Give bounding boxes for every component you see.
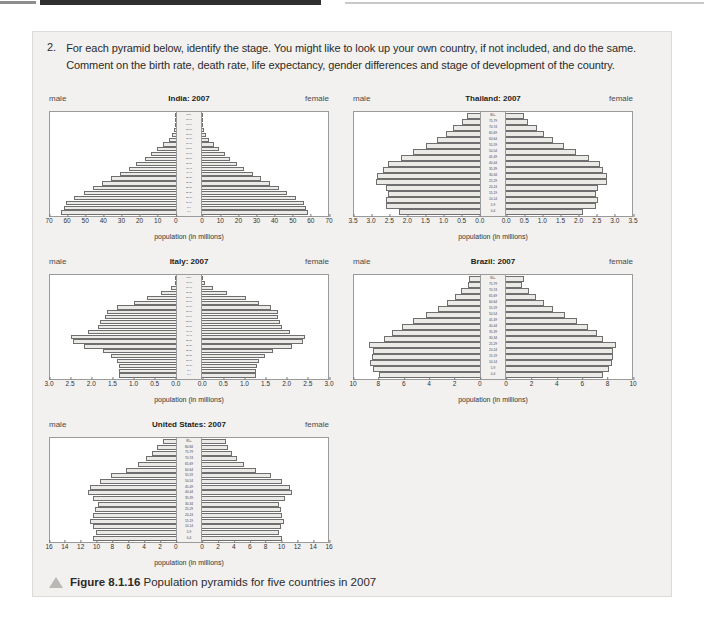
axis-title: population (in millions) [353, 232, 633, 240]
age-axis: 0-45-910-1415-1920-2425-2930-3435-3940-4… [176, 438, 202, 542]
bar-left-15-19 [90, 519, 176, 524]
exercise-card: 2. For each pyramid below, identify the … [32, 31, 672, 597]
female-label: female [609, 94, 633, 103]
bar-right-35-39 [506, 167, 603, 172]
age-label: 0-4 [177, 535, 201, 541]
bar-right-10-14 [506, 197, 598, 202]
bar-right-50-54 [506, 312, 565, 317]
x-tick-left: 2.0 [87, 380, 96, 387]
left-half [50, 438, 176, 542]
x-tick-left: 1.5 [421, 217, 430, 224]
x-tick-left: 0.0 [171, 380, 180, 387]
pyramid-chart-brazil: maleBrazil: 2007female0-45-910-1415-1920… [345, 257, 641, 412]
x-tick-left: 16 [45, 543, 52, 550]
bar-right-15-19 [506, 354, 613, 359]
bar-left-40-44 [402, 324, 480, 329]
x-tick-right: 6 [580, 380, 584, 387]
x-tick-right: 0 [200, 543, 204, 550]
x-axis: 706050403020100010203040506070 [49, 217, 329, 232]
x-tick-right: 70 [325, 217, 332, 224]
bar-left-55-59 [438, 306, 480, 311]
bar-left-30-34 [377, 173, 480, 178]
x-tick-right: 8 [606, 380, 610, 387]
x-tick-left: 50 [82, 217, 89, 224]
axis-title: population (in millions) [49, 395, 329, 403]
x-tick-right: 10 [278, 543, 285, 550]
bar-left-35-39 [93, 496, 176, 501]
x-tick-right: 0.0 [198, 380, 207, 387]
axis-title: population (in millions) [49, 558, 329, 566]
x-tick-left: 3.0 [367, 217, 376, 224]
bar-right-45-49 [506, 155, 589, 160]
bar-right-30-34 [202, 502, 279, 507]
x-tick-right: 1.5 [556, 217, 565, 224]
chart-header: maleIndia: 2007female [41, 94, 337, 108]
bar-left-70-74 [146, 456, 176, 461]
bar-right-20-24 [506, 185, 598, 190]
x-tick-right: 1.5 [261, 380, 270, 387]
triangle-icon [49, 577, 63, 588]
bar-right-80+ [506, 113, 524, 118]
question-number: 2. [47, 40, 56, 73]
bar-left-80+ [469, 276, 480, 281]
bar-left-70-74 [453, 125, 480, 130]
bar-right-40-44 [506, 161, 600, 166]
x-tick-left: 4 [142, 543, 146, 550]
page-root: 2. For each pyramid below, identify the … [0, 0, 704, 621]
bar-right-15-19 [202, 519, 284, 524]
x-tick-right: 20 [235, 217, 242, 224]
chart-title: Italy: 2007 [41, 257, 337, 266]
bar-right-80+ [506, 276, 524, 281]
bar-right-50-54 [506, 149, 576, 154]
x-tick-left: 2 [158, 543, 162, 550]
x-tick-left: 60 [63, 217, 70, 224]
age-label: 0-4 [177, 373, 201, 378]
x-tick-right: 4 [232, 543, 236, 550]
x-tick-right: 1.0 [538, 217, 547, 224]
bar-right-20-24 [202, 513, 282, 518]
x-tick-left: 3.5 [348, 217, 357, 224]
bar-right-45-49 [202, 485, 290, 490]
bar-right-70-74 [506, 125, 537, 130]
x-tick-left: 2.5 [66, 380, 75, 387]
bar-left-65-69 [446, 131, 480, 136]
bar-left-0-4 [61, 210, 176, 214]
x-tick-left: 6 [402, 380, 406, 387]
x-tick-right: 3.5 [628, 217, 637, 224]
x-tick-left: 0 [174, 217, 178, 224]
x-tick-left: 0.5 [457, 217, 466, 224]
x-tick-right: 10 [217, 217, 224, 224]
x-tick-left: 8 [377, 380, 381, 387]
bar-row [354, 372, 480, 378]
bar-right-70-74 [506, 288, 529, 293]
chart-header: maleThailand: 2007female [345, 94, 641, 108]
age-axis: 0-45-910-1415-1920-2425-2930-3435-3940-4… [176, 275, 202, 379]
caption-description: Population pyramids for five countries i… [144, 576, 377, 588]
bar-left-85+ [163, 439, 176, 444]
bar-left-20-24 [373, 348, 480, 353]
bar-right-85+ [202, 439, 226, 444]
x-tick-left: 40 [100, 217, 107, 224]
x-tick-right: 12 [294, 543, 301, 550]
plot-area: 0-45-910-1415-1920-2425-2930-3435-3940-4… [353, 111, 633, 217]
x-tick-right: 3.0 [324, 380, 333, 387]
bar-left-15-19 [388, 191, 480, 196]
bar-left-50-54 [426, 312, 480, 317]
bar-right-0-4 [202, 536, 282, 541]
left-half [354, 112, 480, 216]
header-rule-dark [40, 0, 321, 5]
bar-right-55-59 [506, 306, 553, 311]
right-half [506, 275, 632, 379]
plot-area: 0-45-910-1415-1920-2425-2930-3435-3940-4… [49, 274, 329, 380]
bar-right-5-9 [506, 366, 609, 371]
bar-left-10-14 [370, 360, 480, 365]
bar-left-45-49 [413, 318, 480, 323]
x-tick-left: 14 [61, 543, 68, 550]
axis-title: population (in millions) [353, 395, 633, 403]
bar-left-35-39 [392, 330, 480, 335]
bar-right-55-59 [202, 473, 271, 478]
header-rule-thin [345, 2, 704, 4]
bar-right-25-29 [506, 342, 616, 347]
female-label: female [305, 257, 329, 266]
chart-header: maleBrazil: 2007female [345, 257, 641, 271]
